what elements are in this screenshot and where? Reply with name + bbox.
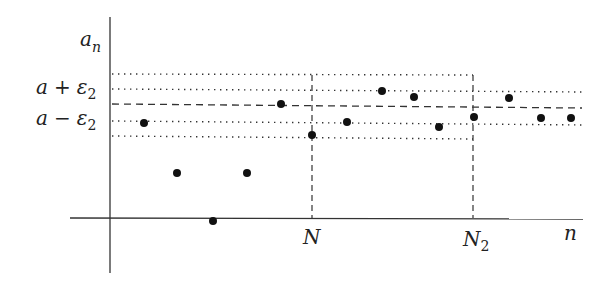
point — [343, 118, 351, 126]
upper-band-sub: 2 — [87, 86, 96, 102]
point — [243, 169, 251, 177]
outer-lower-dotted-line — [112, 136, 473, 139]
x-axis — [70, 218, 583, 219]
upper-band-op: + — [54, 75, 71, 99]
point — [308, 131, 316, 139]
point — [537, 114, 545, 122]
N-label: N — [302, 225, 322, 249]
point — [505, 94, 513, 102]
point — [470, 113, 478, 121]
point — [567, 114, 575, 122]
y-axis-label-main: a — [80, 27, 92, 51]
limit-dashed-line — [112, 104, 582, 108]
point — [173, 169, 181, 177]
upper-eps2-dotted-line — [112, 89, 585, 92]
lower-band-sub: 2 — [87, 117, 96, 133]
band-lines — [112, 74, 585, 139]
outer-upper-dotted-line — [112, 74, 473, 75]
lower-band-label: a−ε2 — [36, 106, 96, 133]
sequence-diagram: an a+ε2 a−ε2 N N2 n — [0, 0, 609, 281]
point — [378, 87, 386, 95]
point — [435, 123, 443, 131]
point — [140, 119, 148, 127]
point — [209, 217, 217, 225]
upper-band-base: a — [36, 75, 48, 99]
N2-label-sub: 2 — [481, 238, 490, 254]
N2-label-main: N — [462, 227, 482, 251]
lower-band-eps: ε — [77, 106, 88, 130]
N2-label: N2 — [462, 227, 489, 254]
x-axis-label: n — [564, 221, 577, 245]
y-axis-label: an — [80, 27, 101, 55]
y-axis-label-sub: n — [92, 39, 101, 55]
upper-band-eps: ε — [77, 75, 88, 99]
upper-band-label: a+ε2 — [36, 75, 96, 102]
point — [410, 93, 418, 101]
lower-band-op: − — [54, 106, 71, 130]
point — [277, 100, 285, 108]
lower-band-base: a — [36, 106, 48, 130]
